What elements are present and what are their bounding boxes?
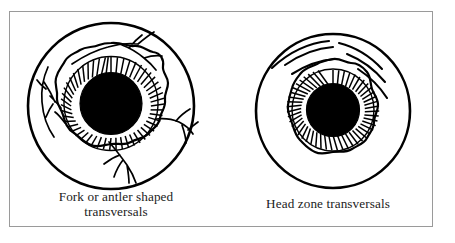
panel-head-zone-transversals: Head zone transversals: [222, 12, 434, 228]
iris-diagram-fork-antler: [10, 12, 222, 192]
caption-head-zone: Head zone transversals: [222, 197, 434, 212]
caption-fork-antler: Fork or antler shaped transversals: [10, 190, 222, 219]
caption-line-1: Head zone transversals: [222, 197, 434, 212]
caption-line-1: Fork or antler shaped: [10, 190, 222, 205]
figure-root: Fork or antler shaped transversals: [0, 0, 455, 243]
pupil-black-disc: [307, 84, 360, 137]
iris-diagram-head-zone: [222, 12, 434, 192]
figure-frame: Fork or antler shaped transversals: [9, 11, 433, 227]
caption-line-2: transversals: [10, 205, 222, 220]
panel-fork-or-antler-shaped-transversals: Fork or antler shaped transversals: [10, 12, 222, 228]
pupil-black-disc: [80, 73, 142, 135]
